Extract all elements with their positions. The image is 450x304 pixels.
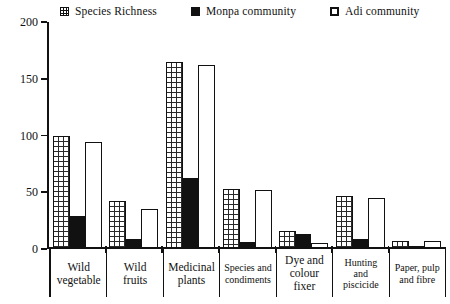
bar-group [219,22,276,249]
bar-group [388,22,445,249]
category-label: Wildvegetable [51,249,107,297]
bar-species-richness [223,189,240,249]
bar-group [162,22,219,249]
y-axis-tick [41,21,47,23]
bar-species-richness [166,62,183,249]
legend-label-adi-community: Adi community [345,6,419,18]
legend-item-monpa-community: Monpa community [191,6,296,18]
outlined-square-icon [330,7,339,16]
plot-area [49,22,445,249]
bar-adi-community [85,142,102,249]
bar-species-richness [336,196,353,249]
category-label: Paper, pulpand fibre [390,249,445,297]
bar-adi-community [368,198,385,249]
y-axis-tick-label: 0 [0,243,38,255]
category-label: Dye andcolourfixer [277,249,333,297]
y-axis-tick [41,78,47,80]
bar-group [275,22,332,249]
bar-groups [49,22,445,249]
y-axis-tick-label: 150 [0,73,38,85]
category-label: Medicinalplants [164,249,220,297]
category-label-table: WildvegetableWildfruitsMedicinalplantsSp… [49,249,446,297]
chart-legend: Species Richness Monpa community Adi com… [60,6,420,18]
bar-chart: Species Richness Monpa community Adi com… [0,0,450,304]
bar-group [332,22,389,249]
filled-square-icon [191,7,200,16]
bar-adi-community [255,190,272,249]
y-axis-tick-label: 200 [0,16,38,28]
bar-group [49,22,106,249]
legend-item-species-richness: Species Richness [60,6,157,18]
category-label: Wildfruits [107,249,163,297]
legend-item-adi-community: Adi community [330,6,419,18]
crosshatch-square-icon [60,7,69,16]
bar-adi-community [198,65,215,249]
category-label: Huntingandpiscicide [333,249,389,297]
bar-adi-community [141,209,158,249]
legend-label-monpa-community: Monpa community [206,6,296,18]
y-axis-tick [41,135,47,137]
bar-monpa-community [183,178,198,250]
category-label: Species andcondiments [220,249,276,297]
y-axis-tick-label: 50 [0,186,38,198]
y-axis-tick-label: 100 [0,130,38,142]
bar-group [106,22,163,249]
bar-species-richness [53,136,70,250]
bar-species-richness [109,201,126,249]
legend-label-species-richness: Species Richness [75,6,157,18]
bar-monpa-community [70,216,85,249]
y-axis-tick [41,191,47,193]
